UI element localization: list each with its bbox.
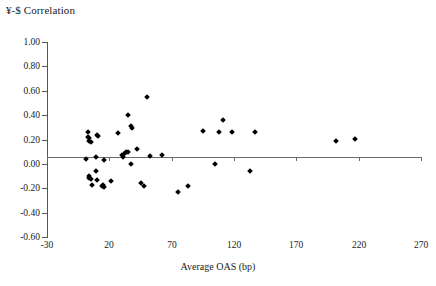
data-point [220,117,226,123]
data-point [115,131,121,137]
y-axis-tick-label-wrap: 0.40 [0,110,40,120]
y-axis-tick-label-wrap: -0.40 [0,208,40,218]
x-axis-tick-mark [172,157,173,161]
y-axis-tick-mark [42,140,47,141]
x-axis-tick-mark [234,157,235,161]
y-axis-tick-label: -0.40 [0,208,40,218]
data-point [200,128,206,134]
data-point [247,168,253,174]
data-point [93,154,99,160]
y-axis-tick-label: 0.80 [0,61,40,71]
x-axis-tick-mark [109,157,110,161]
y-axis-tick-label: 0.20 [0,135,40,145]
data-point [352,136,358,142]
x-axis-tick-label: 170 [276,240,316,251]
x-axis-tick-mark [421,157,422,161]
data-point [134,146,140,152]
y-axis-tick-mark [42,164,47,165]
y-axis-tick-mark [42,42,47,43]
chart-title: ¥-$ Correlation [6,4,75,17]
data-point [212,161,218,167]
data-point [141,184,147,190]
y-axis-tick-label-wrap: 1.00 [0,37,40,47]
y-axis-tick-label: 0.40 [0,110,40,120]
y-axis-tick-mark [42,91,47,92]
y-axis-tick-label: 0.60 [0,86,40,96]
y-axis-tick-label-wrap: 0.60 [0,86,40,96]
y-axis-tick-label: 0.00 [0,159,40,169]
data-point [333,138,339,144]
y-axis-line [47,42,48,238]
data-point [94,177,100,183]
y-axis-tick-label-wrap: -0.20 [0,183,40,193]
data-point [252,129,258,135]
y-axis-tick-label-wrap: 0.20 [0,135,40,145]
y-axis-tick-label: 1.00 [0,37,40,47]
x-axis-tick-mark [47,157,48,161]
y-axis-tick-label: -0.20 [0,183,40,193]
data-point [125,149,131,155]
data-point [185,184,191,190]
data-point [125,112,131,118]
y-axis-tick-mark [42,66,47,67]
x-axis-tick-label: 270 [401,240,436,251]
data-point [216,129,222,135]
y-axis-tick-label-wrap: 0.80 [0,61,40,71]
y-axis-tick-mark [42,213,47,214]
x-axis-tick-label: 70 [152,240,192,251]
y-axis-tick-mark [42,115,47,116]
x-axis-tick-label: 120 [214,240,254,251]
x-axis-tick-mark [359,157,360,161]
x-axis-tick-mark [296,157,297,161]
data-point [144,95,150,101]
data-point [93,168,99,174]
data-point [128,161,134,167]
x-axis-tick-label: 220 [339,240,379,251]
data-point [129,125,135,131]
y-axis-tick-mark [42,188,47,189]
data-point [229,129,235,135]
data-point [89,182,95,188]
x-axis-title: Average OAS (bp) [0,261,436,273]
x-axis-tick-label: 20 [89,240,129,251]
scatter-chart-figure: ¥-$ Correlation -0.60-0.40-0.200.000.200… [0,0,436,286]
x-axis-tick-label: -30 [27,240,67,251]
data-point [102,184,108,190]
y-axis-tick-mark [42,237,47,238]
y-axis-tick-label-wrap: 0.00 [0,159,40,169]
data-point [83,156,89,162]
data-point [175,189,181,195]
data-point [108,178,114,184]
data-point [95,133,101,139]
